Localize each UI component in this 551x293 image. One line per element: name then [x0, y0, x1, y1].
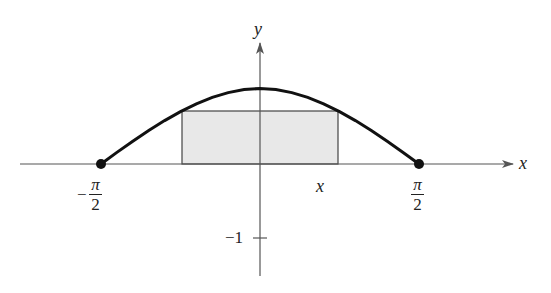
minus-sign: − — [77, 186, 87, 203]
y-axis-label: y — [254, 20, 262, 38]
numerator: π — [91, 176, 100, 193]
right-endpoint-dot — [414, 159, 424, 169]
denominator: 2 — [91, 196, 100, 213]
right-endpoint-label: π 2 — [411, 176, 424, 213]
y-tick-label: −1 — [225, 229, 243, 246]
rect-corner-x-label: x — [316, 177, 324, 195]
diagram-canvas — [0, 0, 551, 293]
left-endpoint-label: − π 2 — [89, 176, 102, 213]
left-endpoint-dot — [96, 159, 106, 169]
numerator: π — [413, 176, 422, 193]
x-axis-label: x — [519, 154, 527, 172]
denominator: 2 — [413, 196, 422, 213]
